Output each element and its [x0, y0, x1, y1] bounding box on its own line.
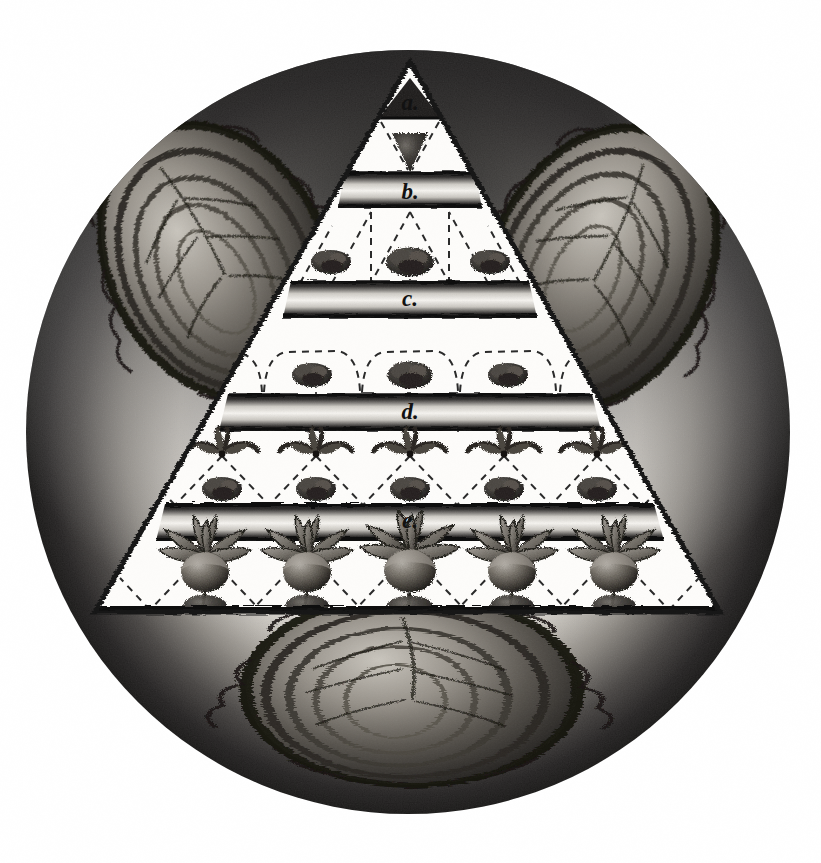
- paper-grain-overlay: [0, 0, 821, 863]
- engraving-plate: a. b. c. d. e.: [0, 0, 821, 863]
- plate-canvas: a. b. c. d. e.: [0, 0, 821, 863]
